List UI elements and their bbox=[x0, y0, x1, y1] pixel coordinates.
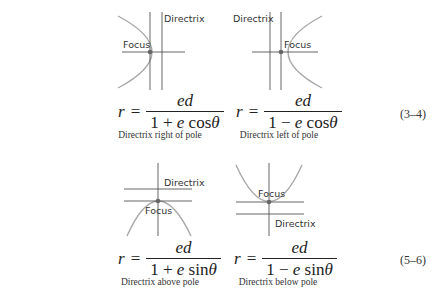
caption-directrix-right: Directrix right of pole bbox=[118, 130, 202, 140]
focus-dot bbox=[156, 199, 161, 204]
directrix-label: Directrix bbox=[164, 13, 205, 24]
parabola-curve bbox=[127, 201, 191, 236]
formula-equals: = bbox=[247, 249, 257, 269]
formula-equals: = bbox=[131, 102, 141, 122]
formula-lhs: r bbox=[236, 102, 243, 122]
caption-directrix-left: Directrix left of pole bbox=[237, 130, 321, 140]
formula-equals: = bbox=[249, 102, 259, 122]
formula-lhs: r bbox=[118, 249, 125, 269]
numerator: ed bbox=[291, 92, 315, 111]
formula-equals: = bbox=[131, 249, 141, 269]
polar-equation-directrix-below: r = ed 1 − e sinθ bbox=[234, 239, 337, 279]
directrix-label: Directrix bbox=[275, 218, 316, 229]
denominator: 1 + e cosθ bbox=[146, 111, 223, 132]
focus-dot bbox=[279, 50, 284, 55]
denominator: 1 − e sinθ bbox=[262, 258, 337, 279]
fraction: ed 1 + e sinθ bbox=[146, 239, 221, 279]
den-theta: θ bbox=[324, 260, 332, 279]
equation-number-3-4: (3–4) bbox=[400, 107, 426, 122]
den-theta: θ bbox=[329, 113, 337, 132]
formula-lhs: r bbox=[234, 249, 241, 269]
focus-dot bbox=[148, 50, 153, 55]
den-theta: θ bbox=[211, 113, 219, 132]
focus-label: Focus bbox=[145, 205, 172, 216]
caption-directrix-below: Directrix below pole bbox=[236, 277, 320, 287]
parabola-curve bbox=[118, 16, 152, 88]
denominator: 1 + e sinθ bbox=[146, 258, 221, 279]
parabola-curve bbox=[288, 16, 322, 88]
polar-equation-directrix-left: r = ed 1 − e cosθ bbox=[236, 92, 342, 132]
formula-lhs: r bbox=[118, 102, 125, 122]
directrix-label: Directrix bbox=[164, 177, 205, 188]
focus-label: Focus bbox=[258, 188, 285, 199]
focus-label: Focus bbox=[123, 39, 150, 50]
focus-dot bbox=[267, 200, 272, 205]
fraction: ed 1 − e cosθ bbox=[264, 92, 341, 132]
equation-number-5-6: (5–6) bbox=[400, 253, 426, 268]
parabola-curve bbox=[236, 165, 302, 202]
denominator: 1 − e cosθ bbox=[264, 111, 341, 132]
caption-directrix-above: Directrix above pole bbox=[118, 277, 202, 287]
polar-equation-directrix-right: r = ed 1 + e cosθ bbox=[118, 92, 224, 132]
numerator: ed bbox=[171, 239, 195, 258]
polar-equation-directrix-above: r = ed 1 + e sinθ bbox=[118, 239, 221, 279]
den-theta: θ bbox=[208, 260, 216, 279]
fraction: ed 1 − e sinθ bbox=[262, 239, 337, 279]
fraction: ed 1 + e cosθ bbox=[146, 92, 223, 132]
focus-label: Focus bbox=[284, 39, 311, 50]
numerator: ed bbox=[173, 92, 197, 111]
directrix-label: Directrix bbox=[233, 13, 274, 24]
numerator: ed bbox=[287, 239, 311, 258]
